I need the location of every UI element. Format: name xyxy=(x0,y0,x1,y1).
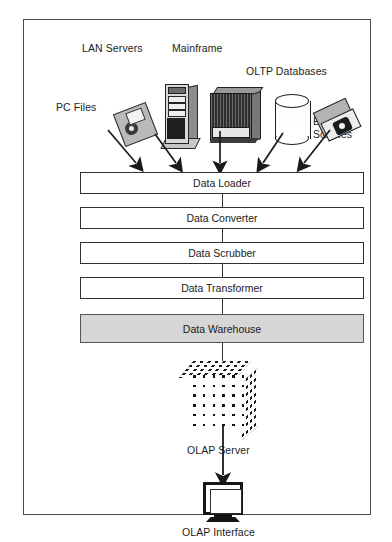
output-label-olap-interface: OLAP Interface xyxy=(182,526,255,539)
arrow-lan-servers xyxy=(155,134,176,163)
connector-loader-converter xyxy=(222,194,223,207)
arrow-external-sources xyxy=(304,130,330,163)
source-arrows-group xyxy=(24,20,372,180)
pipeline-box-data-converter[interactable]: Data Converter xyxy=(80,207,364,229)
arrow-oltp xyxy=(263,133,283,163)
monitor-screen xyxy=(210,489,242,514)
pipeline-label-data-converter: Data Converter xyxy=(186,212,257,224)
output-label-olap-server: OLAP Server xyxy=(187,444,250,457)
pipeline-box-data-warehouse[interactable]: Data Warehouse xyxy=(80,314,364,343)
pipeline-box-data-scrubber[interactable]: Data Scrubber xyxy=(80,242,364,264)
connector-transformer-warehouse xyxy=(222,299,223,314)
connector-warehouse-cube xyxy=(222,343,223,363)
pipeline-label-data-warehouse: Data Warehouse xyxy=(183,323,261,335)
connector-scrubber-transformer xyxy=(222,264,223,277)
arrow-pc-files xyxy=(108,130,136,163)
pipeline-box-data-loader[interactable]: Data Loader xyxy=(80,172,364,194)
pipeline-label-data-loader: Data Loader xyxy=(193,177,251,189)
crt-monitor-icon xyxy=(203,482,245,522)
pipeline-label-data-scrubber: Data Scrubber xyxy=(188,247,256,259)
pipeline-label-data-transformer: Data Transformer xyxy=(181,282,263,294)
diagram-frame: PC Files LAN Servers Mainframe OLTP Data… xyxy=(23,19,371,515)
pipeline-box-data-transformer[interactable]: Data Transformer xyxy=(80,277,364,299)
connector-converter-scrubber xyxy=(222,229,223,242)
olap-cube-icon xyxy=(186,361,260,445)
